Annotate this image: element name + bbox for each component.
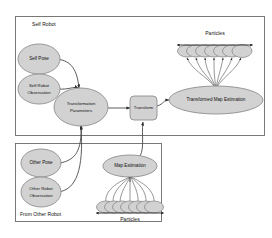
edge-transform-to-transformed-map-estimation	[157, 100, 169, 106]
node-label-self-pose: Self Pose	[29, 56, 49, 61]
particle-cluster-bottom	[97, 201, 164, 213]
robot-map-merging-diagram: Self Robot From Other Robot	[0, 0, 272, 238]
fan-lines-particles-bottom	[106, 174, 154, 203]
diagram-canvas: Self Robot From Other Robot	[0, 0, 272, 238]
edge-other-pose-to-transformation-parameters	[60, 125, 81, 163]
node-transformed-map-estimation: Transformed Map Estimation	[169, 86, 263, 114]
node-label-other-pose: Other Pose	[29, 160, 53, 165]
node-label-other-robot-observation-line1: Other Robot	[29, 186, 53, 191]
edge-map-estimation-to-transform	[137, 122, 143, 160]
node-label-self-robot-observation-line1: Self Robot	[29, 83, 50, 88]
node-transform: Transform	[130, 96, 157, 120]
node-other-pose: Other Pose	[21, 149, 61, 177]
edge-self-pose-to-transformation-parameters	[57, 59, 79, 88]
particle-cluster-top	[178, 45, 253, 58]
node-other-robot-observation: Other Robot Observation	[21, 177, 61, 207]
node-self-pose: Self Pose	[18, 44, 60, 74]
node-label-self-robot-observation-line2: Observation	[27, 90, 51, 95]
cluster-label-particles-top: Particles	[205, 30, 225, 36]
node-label-map-estimation: Map Estimation	[114, 163, 146, 168]
node-transformation-parameters: Transformation Parameters	[54, 88, 108, 126]
fan-lines-particles-top	[187, 58, 241, 88]
node-map-estimation: Map Estimation	[103, 155, 157, 177]
group-label-from-other-robot: From Other Robot	[20, 211, 62, 217]
cluster-label-particles-bottom: Particles	[120, 216, 140, 222]
group-label-self-robot: Self Robot	[32, 21, 56, 27]
node-label-transform: Transform	[134, 105, 154, 110]
node-label-transformation-parameters-line2: Parameters	[70, 108, 92, 113]
node-label-transformed-map-estimation: Transformed Map Estimation	[187, 97, 246, 102]
node-label-transformation-parameters-line1: Transformation	[67, 101, 96, 106]
node-label-other-robot-observation-line2: Observation	[29, 193, 53, 198]
node-self-robot-observation: Self Robot Observation	[18, 74, 60, 104]
